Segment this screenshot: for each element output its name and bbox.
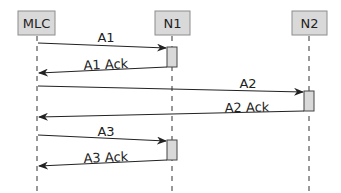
actor-label-mlc: MLC <box>23 16 51 31</box>
message-label-a1: A1 <box>97 30 114 45</box>
actor-mlc: MLC <box>18 11 55 35</box>
actor-label-n2: N2 <box>301 16 319 31</box>
actor-label-n1: N1 <box>164 16 182 31</box>
activation-n2-a2 <box>304 91 314 111</box>
message-a3: A3 <box>38 124 166 141</box>
sequence-diagram: MLC N1 N2 A1 A1 Ack A2 A2 Ack A3 A3 Ack <box>0 0 341 193</box>
message-label-a2: A2 <box>239 76 256 91</box>
actor-n2: N2 <box>292 11 327 35</box>
message-label-a3-ack: A3 Ack <box>83 149 129 166</box>
message-label-a1-ack: A1 Ack <box>83 56 129 73</box>
message-a2: A2 <box>38 76 303 92</box>
message-label-a2-ack: A2 Ack <box>224 99 269 115</box>
message-label-a3: A3 <box>97 124 114 139</box>
actor-n1: N1 <box>155 11 190 35</box>
activation-n1-a1 <box>167 47 177 67</box>
message-a1-ack: A1 Ack <box>39 56 167 73</box>
message-a3-ack: A3 Ack <box>39 149 167 166</box>
activation-n1-a3 <box>167 140 177 160</box>
message-a1: A1 <box>38 30 166 48</box>
